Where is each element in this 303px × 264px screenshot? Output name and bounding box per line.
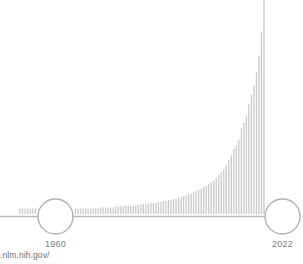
chart-bar — [82, 208, 83, 214]
chart-bar — [138, 205, 139, 214]
chart-bar — [100, 207, 101, 214]
chart-bar — [92, 208, 93, 214]
chart-bar — [80, 208, 81, 214]
chart-bar — [246, 116, 247, 214]
chart-bar — [261, 32, 262, 214]
marker-2022-label: 2022 — [272, 239, 293, 249]
bars-group — [19, 0, 264, 214]
chart-bar — [256, 73, 257, 214]
chart-bar — [120, 207, 121, 214]
chart-bar — [155, 203, 156, 214]
chart-bar — [243, 123, 244, 214]
chart-bar — [140, 205, 141, 214]
chart-bar — [110, 207, 111, 214]
chart-bar — [24, 208, 25, 214]
chart-bar — [30, 208, 31, 214]
chart-bar — [198, 190, 199, 214]
chart-bar — [19, 208, 20, 214]
source-url-text: .nlm.nih.gov/ — [0, 250, 50, 260]
chart-bar — [185, 195, 186, 214]
chart-bar — [213, 181, 214, 215]
chart-bar — [87, 208, 88, 214]
marker-2022 — [265, 199, 300, 234]
chart-bar — [90, 208, 91, 214]
chart-bar — [236, 145, 237, 214]
chart-bar — [206, 186, 207, 214]
chart-bar — [251, 95, 252, 214]
chart-bar — [195, 191, 196, 214]
chart-bar — [115, 207, 116, 214]
bar-chart-svg: 19602022 — [0, 0, 303, 264]
chart-bar — [165, 201, 166, 214]
chart-bar — [103, 207, 104, 214]
chart-bar — [158, 202, 159, 214]
chart-bar — [241, 128, 242, 214]
chart-bar — [170, 200, 171, 214]
chart-figure: 19602022 — [0, 0, 303, 264]
chart-bar — [130, 206, 131, 214]
chart-bar — [218, 175, 219, 214]
chart-bar — [133, 206, 134, 214]
chart-bar — [180, 197, 181, 214]
chart-bar — [143, 204, 144, 214]
chart-bar — [168, 200, 169, 214]
chart-bar — [97, 208, 98, 214]
chart-bar — [148, 204, 149, 214]
chart-bar — [108, 207, 109, 214]
chart-bar — [85, 208, 86, 214]
chart-bar — [193, 193, 194, 214]
chart-bar — [263, 0, 264, 214]
chart-bar — [188, 194, 189, 214]
chart-bar — [231, 155, 232, 214]
chart-bar — [211, 182, 212, 214]
chart-bar — [35, 208, 36, 214]
chart-bar — [221, 172, 222, 214]
chart-bar — [153, 203, 154, 214]
chart-bar — [233, 149, 234, 214]
marker-1960 — [38, 199, 73, 234]
chart-bar — [178, 198, 179, 214]
axis-labels-group: 19602022 — [45, 239, 293, 249]
chart-bar — [175, 199, 176, 214]
chart-bar — [22, 208, 23, 214]
chart-bar — [216, 178, 217, 214]
chart-bar — [223, 169, 224, 214]
chart-bar — [118, 207, 119, 214]
chart-bar — [150, 203, 151, 214]
chart-bar — [163, 201, 164, 214]
chart-bar — [95, 208, 96, 214]
chart-bar — [125, 206, 126, 214]
chart-bar — [32, 208, 33, 214]
chart-bar — [145, 204, 146, 214]
chart-bar — [208, 184, 209, 214]
chart-bar — [226, 166, 227, 214]
chart-bar — [238, 140, 239, 214]
chart-bar — [77, 208, 78, 214]
chart-bar — [27, 208, 28, 214]
chart-bar — [75, 208, 76, 214]
chart-bar — [203, 187, 204, 214]
chart-bar — [201, 189, 202, 214]
chart-bar — [160, 202, 161, 214]
chart-bar — [190, 194, 191, 214]
chart-bar — [258, 56, 259, 214]
chart-bar — [128, 206, 129, 214]
chart-bar — [228, 160, 229, 214]
chart-bar — [253, 86, 254, 214]
chart-bar — [135, 205, 136, 214]
chart-bar — [123, 207, 124, 214]
marker-1960-label: 1960 — [45, 239, 66, 249]
chart-bar — [248, 104, 249, 214]
chart-bar — [113, 207, 114, 214]
chart-bar — [105, 207, 106, 214]
chart-bar — [173, 199, 174, 214]
chart-bar — [183, 196, 184, 214]
